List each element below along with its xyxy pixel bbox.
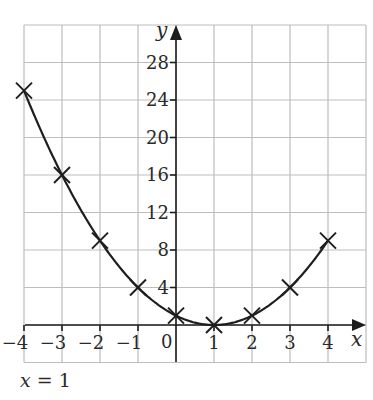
caption-variable: x xyxy=(20,369,31,391)
x-tick-label: −4 xyxy=(2,332,29,353)
y-tick-label: 20 xyxy=(146,127,169,148)
x-tick-label: 4 xyxy=(322,332,333,353)
y-tick-label: 28 xyxy=(146,52,169,73)
grid xyxy=(24,25,366,363)
y-tick-label: 24 xyxy=(146,89,169,110)
axes xyxy=(25,25,366,362)
y-tick-label: 4 xyxy=(158,277,169,298)
x-tick-label: −2 xyxy=(78,332,105,353)
origin-label: 0 xyxy=(161,331,172,352)
y-axis-label: y xyxy=(155,18,168,42)
parabola-chart: −4−3−2−11234481216202428 x y 0 xyxy=(0,0,373,400)
y-tick-label: 8 xyxy=(158,239,169,260)
x-tick-label: 1 xyxy=(208,332,219,353)
y-axis-arrow-icon xyxy=(170,25,182,40)
x-tick-label: 3 xyxy=(284,332,295,353)
caption: x = 1 xyxy=(20,369,71,391)
tick-labels: −4−3−2−11234481216202428 xyxy=(2,52,334,354)
x-axis-label: x xyxy=(351,327,362,351)
y-tick-label: 12 xyxy=(146,202,169,223)
x-tick-label: −3 xyxy=(40,332,67,353)
x-tick-label: 2 xyxy=(246,332,257,353)
caption-value: = 1 xyxy=(31,369,71,391)
x-tick-label: −1 xyxy=(116,332,143,353)
y-tick-label: 16 xyxy=(146,164,169,185)
